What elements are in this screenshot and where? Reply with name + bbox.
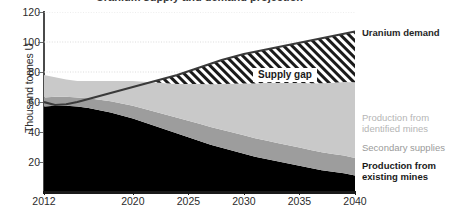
stacked-areas: [44, 75, 355, 192]
chart-legend: Uranium demand Production from identifie…: [362, 0, 457, 214]
x-tick-mark: [133, 191, 134, 195]
plot-area: [44, 12, 355, 192]
x-tick-label: 2020: [121, 195, 144, 207]
x-tick-mark: [44, 191, 45, 195]
x-axis-line: [43, 191, 356, 194]
legend-item-identified-mines: Production from identified mines: [362, 112, 429, 134]
x-tick-mark: [244, 191, 245, 195]
chart-svg: [44, 12, 355, 192]
x-tick-label: 2030: [232, 195, 255, 207]
y-tick-label: 20: [10, 157, 40, 167]
x-tick-label: 2035: [288, 195, 311, 207]
legend-item-uranium-demand: Uranium demand: [362, 27, 440, 38]
x-tick-label: 2025: [177, 195, 200, 207]
supply-gap-annotation: Supply gap: [253, 68, 317, 82]
chart-title: Uranium supply and demand projection: [44, 0, 355, 3]
x-tick-mark: [188, 191, 189, 195]
y-axis-ticks: 20406080100120: [0, 0, 40, 214]
x-tick-mark: [355, 191, 356, 195]
y-tick-label: 120: [10, 7, 40, 17]
legend-item-secondary-supplies: Secondary supplies: [362, 142, 445, 153]
y-tick-label: 100: [10, 37, 40, 47]
y-tick-label: 40: [10, 127, 40, 137]
x-tick-label: 2012: [32, 195, 55, 207]
y-tick-label: 60: [10, 97, 40, 107]
y-tick-label: 80: [10, 67, 40, 77]
legend-item-existing-mines: Production from existing mines: [362, 160, 436, 182]
x-tick-mark: [299, 191, 300, 195]
chart-figure: Uranium supply and demand projection Tho…: [0, 0, 457, 214]
